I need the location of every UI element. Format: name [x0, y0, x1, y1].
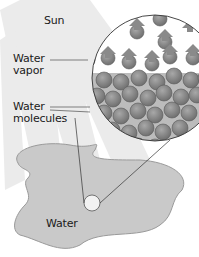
sun-label: Sun — [44, 15, 64, 27]
water-label: Water — [46, 218, 78, 230]
magnify-spot — [84, 195, 100, 211]
evaporation-diagram: Sun Water vapor Water molecules Water — [0, 0, 199, 257]
water-vapor-label-line2: vapor — [13, 65, 44, 77]
diagram-graphic — [0, 0, 199, 257]
water-puddle — [15, 144, 184, 249]
water-molecules-label-line2: molecules — [13, 113, 67, 125]
